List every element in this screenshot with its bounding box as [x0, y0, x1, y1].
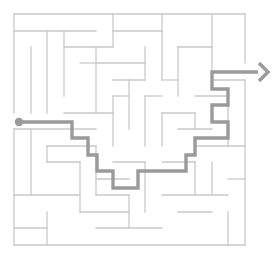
- maze-canvas: [0, 0, 279, 265]
- figure-background: [0, 0, 279, 265]
- start-dot: [15, 118, 23, 126]
- maze-figure: [0, 0, 279, 265]
- start-dot-marker: [15, 118, 23, 126]
